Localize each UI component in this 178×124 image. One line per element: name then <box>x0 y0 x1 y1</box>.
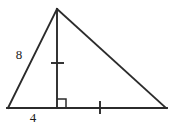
base-segment-length-label: 4 <box>30 110 37 124</box>
triangle-diagram-svg: 8 4 <box>0 0 178 124</box>
left-side-length-label: 8 <box>16 47 23 62</box>
geometry-figure: 8 4 <box>0 0 178 124</box>
triangle-right-side <box>57 9 166 108</box>
right-angle-marker-icon <box>57 99 66 108</box>
